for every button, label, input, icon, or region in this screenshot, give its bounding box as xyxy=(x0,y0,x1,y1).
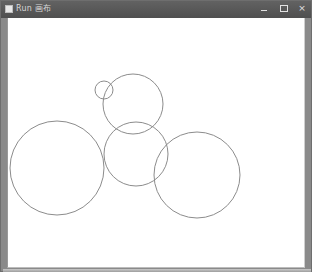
app-window: Run 画布 × xyxy=(0,0,312,272)
window-title: Run 画布 xyxy=(16,3,52,15)
left-large-circle xyxy=(10,121,104,215)
close-icon: × xyxy=(298,3,306,13)
minimize-icon xyxy=(261,10,267,11)
close-button[interactable]: × xyxy=(291,1,313,16)
minimize-button[interactable] xyxy=(253,1,275,16)
right-circle xyxy=(154,132,240,218)
middle-circle xyxy=(104,122,168,186)
maximize-icon xyxy=(280,5,288,12)
upper-medium-circle xyxy=(103,74,163,134)
circle-canvas xyxy=(8,18,306,268)
title-bar[interactable]: Run 画布 × xyxy=(1,1,311,18)
app-icon[interactable] xyxy=(5,5,13,13)
window-bottom-border xyxy=(3,269,311,272)
drawing-area[interactable] xyxy=(7,18,305,268)
